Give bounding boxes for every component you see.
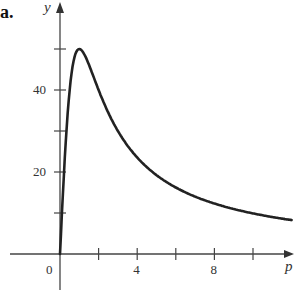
x-axis-arrow-icon <box>284 250 294 258</box>
x-tick-label: 4 <box>133 263 140 276</box>
x-axis-label: p <box>285 259 293 274</box>
x-tick-label: 0 <box>46 263 53 276</box>
y-tick-label: 40 <box>33 83 46 96</box>
x-tick-label: 8 <box>210 263 217 276</box>
line-chart <box>0 0 299 292</box>
y-axis-arrow-icon <box>56 2 64 13</box>
y-axis-label: y <box>44 0 51 15</box>
data-curve <box>60 49 292 254</box>
y-tick-label: 20 <box>33 165 46 178</box>
